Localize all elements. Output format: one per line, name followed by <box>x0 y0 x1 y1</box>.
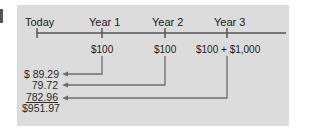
arrow-year-3 <box>66 56 227 98</box>
cash-flow-year-1: $100 <box>91 44 113 55</box>
present-value-year-2: 79.72 <box>24 80 58 91</box>
label-year-2: Year 2 <box>152 16 183 28</box>
arrow-year-1 <box>66 56 102 74</box>
label-today: Today <box>25 16 54 28</box>
label-year-1: Year 1 <box>89 16 120 28</box>
arrow-year-2 <box>66 56 165 85</box>
present-value-total: $951.97 <box>22 103 58 114</box>
arrowhead-year-2 <box>62 83 68 88</box>
label-year-3: Year 3 <box>214 16 245 28</box>
arrowhead-year-3 <box>62 96 68 101</box>
cash-flow-year-2: $100 <box>154 44 176 55</box>
arrowhead-year-1 <box>62 72 68 77</box>
cash-flow-year-3: $100 + $1,000 <box>196 44 260 55</box>
